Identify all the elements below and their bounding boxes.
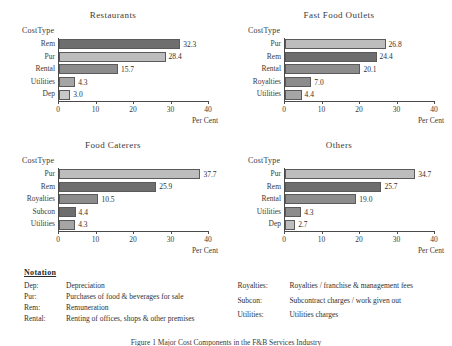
notation-entry: Rental: Renting of offices, shops & othe… xyxy=(24,313,237,324)
category-axis-header: CostType xyxy=(22,156,54,165)
bar-row: 25.9 xyxy=(59,181,172,194)
x-axis-tick xyxy=(284,231,285,234)
notation-definition: Purchases of food & beverages for sale xyxy=(66,291,237,302)
category-label: Pur xyxy=(211,38,281,51)
bar xyxy=(285,194,356,204)
notation-definition: Royalties / franchise & management fees xyxy=(289,280,436,295)
bar-row: 25.7 xyxy=(285,181,398,194)
x-axis-tick xyxy=(58,231,59,234)
x-axis-tick-label: 20 xyxy=(129,235,137,244)
bar xyxy=(285,39,386,49)
category-label: Dep xyxy=(0,88,55,101)
category-label: Rem xyxy=(211,181,281,194)
x-axis-tick-label: 20 xyxy=(129,105,137,114)
notation-entry: Subcon: Subcontract charges / work given… xyxy=(237,295,436,310)
bar-value-label: 4.4 xyxy=(305,90,314,99)
notation-entry: Utilities: Utilities charges xyxy=(237,309,436,324)
x-axis-tick xyxy=(397,231,398,234)
x-axis-tick xyxy=(58,101,59,104)
bar-row: 3.0 xyxy=(59,88,83,101)
category-label: Pur xyxy=(0,168,55,181)
x-axis-tick xyxy=(96,101,97,104)
notation-definition: Subcontract charges / work given out xyxy=(289,295,436,310)
notation-entry: Pur: Purchases of food & beverages for s… xyxy=(24,291,237,302)
bar-value-label: 4.3 xyxy=(304,208,313,217)
bar-value-label: 25.9 xyxy=(159,182,172,191)
bar-value-label: 3.0 xyxy=(73,90,82,99)
bar xyxy=(59,64,118,74)
notation-term: Utilities: xyxy=(237,309,289,324)
x-axis-tick-label: 30 xyxy=(393,105,401,114)
bar-value-label: 26.8 xyxy=(389,40,402,49)
category-label: Rental xyxy=(211,193,281,206)
bar xyxy=(59,77,75,87)
bar-value-label: 28.4 xyxy=(169,52,182,61)
x-axis-tick xyxy=(284,101,285,104)
x-axis-tick xyxy=(322,101,323,104)
bar xyxy=(285,90,302,100)
notation-title: Notation xyxy=(24,268,436,277)
bar-value-label: 7.0 xyxy=(314,78,323,87)
bar-row: 34.7 xyxy=(285,168,431,181)
category-label: Rem xyxy=(0,181,55,194)
x-axis-tick xyxy=(171,231,172,234)
bar-value-label: 34.7 xyxy=(418,170,431,179)
category-label: Subcon xyxy=(0,206,55,219)
category-axis-header: CostType xyxy=(248,26,280,35)
chart-panel-fast-food-outlets: Fast Food Outlets CostType 26.8Pur24.4Re… xyxy=(226,0,452,130)
category-label: Utilities xyxy=(211,206,281,219)
plot-area: 32.3Rem28.4Pur15.7Rental4.3Utilities3.0D… xyxy=(58,38,208,101)
bar-row: 24.4 xyxy=(285,51,393,64)
notation-entry: Rem: Remuneration xyxy=(24,302,237,313)
x-axis-tick-label: 0 xyxy=(282,235,286,244)
notation-column-right: Royalties: Royalties / franchise & manag… xyxy=(237,280,436,324)
bar-row: 4.3 xyxy=(59,76,88,89)
x-axis-tick-label: 10 xyxy=(92,105,100,114)
bar-value-label: 24.4 xyxy=(380,52,393,61)
plot-area: 34.7Pur25.7Rem19.0Rental4.3Utilities2.7D… xyxy=(284,168,434,231)
x-axis-tick xyxy=(133,231,134,234)
bar xyxy=(285,207,301,217)
chart-title: Restaurants xyxy=(0,10,226,20)
notation-term: Rem: xyxy=(24,302,66,313)
bar-row: 32.3 xyxy=(59,38,196,51)
bar-row: 2.7 xyxy=(285,218,308,231)
notation-term: Subcon: xyxy=(237,295,289,310)
category-label: Dep xyxy=(211,218,281,231)
category-label: Pur xyxy=(211,168,281,181)
category-label: Pur xyxy=(0,51,55,64)
bar xyxy=(285,52,377,62)
x-axis-tick xyxy=(359,101,360,104)
bar xyxy=(285,64,360,74)
chart-panel-others: Others CostType 34.7Pur25.7Rem19.0Rental… xyxy=(226,130,452,260)
bar-row: 10.5 xyxy=(59,193,115,206)
bar xyxy=(59,207,76,217)
x-axis-caption: Per Cent xyxy=(284,116,444,125)
notation-definition: Remuneration xyxy=(66,302,237,313)
bar-row: 28.4 xyxy=(59,51,182,64)
x-axis-tick xyxy=(171,101,172,104)
notation-definition: Renting of offices, shops & other premis… xyxy=(66,313,237,324)
x-axis-tick-label: 10 xyxy=(318,235,326,244)
category-label: Utilities xyxy=(0,76,55,89)
bar-value-label: 10.5 xyxy=(101,195,114,204)
x-axis-tick-label: 20 xyxy=(355,235,363,244)
bar-value-label: 20.1 xyxy=(363,65,376,74)
x-axis-tick xyxy=(434,101,435,104)
notation-definition: Depreciation xyxy=(66,280,237,291)
x-axis-tick-label: 10 xyxy=(92,235,100,244)
x-axis-tick xyxy=(359,231,360,234)
bar xyxy=(285,182,381,192)
plot-area: 26.8Pur24.4Rem20.1Rental7.0Royalties4.4U… xyxy=(284,38,434,101)
bar-row: 15.7 xyxy=(59,63,134,76)
x-axis-tick xyxy=(434,231,435,234)
x-axis-tick-label: 0 xyxy=(56,235,60,244)
x-axis-tick-label: 0 xyxy=(56,105,60,114)
chart-title: Fast Food Outlets xyxy=(226,10,452,20)
bar-row: 4.3 xyxy=(285,206,314,219)
bar-row: 20.1 xyxy=(285,63,377,76)
chart-title: Food Caterers xyxy=(0,140,226,150)
x-axis-caption: Per Cent xyxy=(58,246,218,255)
bar xyxy=(59,194,98,204)
plot-area: 37.7Pur25.9Rem10.5Royalties4.4Subcon4.3U… xyxy=(58,168,208,231)
